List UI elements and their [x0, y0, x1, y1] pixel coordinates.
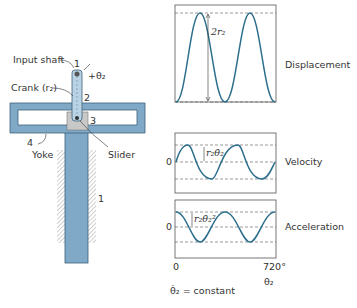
velocity-plot: r₂θ̇₂ 0 Velocity — [166, 133, 323, 193]
yoke-stem — [65, 128, 88, 263]
acceleration-amplitude: r₂θ̇₂² — [194, 213, 216, 224]
mechanism: Input shaft 1 +θ₂ Crank (r₂) 2 3 4 Yoke … — [10, 54, 145, 263]
velocity-label: Velocity — [285, 156, 323, 167]
velocity-zero: 0 — [166, 156, 172, 167]
input-shaft-label: Input shaft — [13, 54, 65, 65]
crank-label: Crank (r₂) — [11, 82, 57, 93]
displacement-plot: 2r₂ Displacement — [175, 5, 351, 102]
theta-label: +θ₂ — [88, 70, 106, 81]
velocity-amplitude: r₂θ̇₂ — [206, 147, 224, 158]
acceleration-plot: r₂θ̇₂² 0 Acceleration — [166, 200, 344, 258]
x-start-label: 0 — [173, 261, 179, 272]
acceleration-label: Acceleration — [285, 221, 344, 232]
condition-label: θ̇₂ = constant — [170, 285, 235, 296]
yoke-number: 4 — [27, 137, 33, 148]
input-shaft-number: 1 — [74, 58, 80, 69]
yoke-label: Yoke — [31, 149, 54, 160]
slider-label: Slider — [108, 149, 135, 160]
displacement-label: Displacement — [285, 59, 351, 70]
displacement-amplitude: 2r₂ — [210, 26, 226, 37]
x-axis-label: θ₂ — [264, 276, 274, 287]
scotch-yoke-figure: Input shaft 1 +θ₂ Crank (r₂) 2 3 4 Yoke … — [0, 0, 357, 308]
x-end-label: 720° — [263, 261, 286, 272]
ground-hatch-left — [57, 150, 65, 243]
input-shaft-pin — [75, 72, 80, 77]
ground-number: 1 — [98, 193, 104, 204]
ground-hatch-right — [88, 150, 96, 243]
displacement-curve — [176, 13, 275, 102]
slider-number: 3 — [90, 115, 96, 126]
crank-number: 2 — [84, 92, 90, 103]
slider-pin — [75, 116, 79, 120]
acceleration-zero: 0 — [166, 221, 172, 232]
